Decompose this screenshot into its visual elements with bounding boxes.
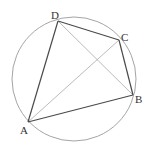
vertex-label-a: A [20,124,28,136]
cyclic-quadrilateral-diagram: A B C D [0,0,151,149]
vertex-label-d: D [51,9,59,21]
circumscribed-circle [12,17,136,141]
vertex-label-c: C [121,31,128,43]
side-bc [119,40,133,95]
vertex-label-b: B [135,93,142,105]
side-ab [28,95,133,122]
side-da [28,21,58,122]
